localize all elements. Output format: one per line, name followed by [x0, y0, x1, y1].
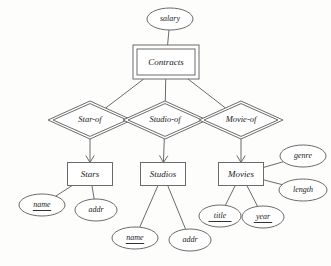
- edge-movies-genre-edge: [264, 162, 284, 168]
- attribute-label-movies-genre: genre: [294, 151, 312, 160]
- attribute-label-movies-length: length: [293, 185, 313, 194]
- edge-stars-name-edge: [56, 186, 73, 197]
- relationship-label-studio-of: Studio-of: [149, 114, 182, 124]
- edge-studios-name-edge: [140, 186, 158, 228]
- edge-star-of-stars: [86, 139, 94, 163]
- edge-line: [163, 139, 164, 163]
- er-diagram-canvas: ContractsStarsStudiosMoviesStar-ofStudio…: [0, 0, 331, 266]
- entity-label-contracts: Contracts: [148, 57, 184, 67]
- edge-salary-contracts: [168, 30, 169, 45]
- er-diagram-svg: ContractsStarsStudiosMoviesStar-ofStudio…: [0, 0, 331, 266]
- edge-studios-addr-edge: [168, 186, 186, 230]
- edge-line: [140, 186, 158, 228]
- edge-movies-year-edge: [247, 186, 258, 207]
- edge-line: [225, 186, 235, 206]
- edge-line: [264, 162, 284, 168]
- shapes-layer: [19, 8, 327, 251]
- edge-line: [56, 186, 73, 197]
- edge-contracts-star-of: [106, 79, 144, 108]
- edge-movie-of-movies: [237, 139, 245, 163]
- edge-movies-title-edge: [225, 186, 235, 206]
- edge-line: [264, 180, 283, 185]
- edge-stars-addr-edge: [92, 186, 94, 200]
- edge-line: [247, 186, 258, 207]
- attribute-label-stars-addr: addr: [88, 205, 104, 214]
- edge-contracts-movie-of: [188, 79, 226, 108]
- entity-label-studios: Studios: [150, 169, 177, 179]
- edge-studio-of-studios: [159, 139, 167, 163]
- edge-line: [168, 30, 169, 45]
- attribute-label-stars-name: name: [33, 200, 51, 209]
- edge-line: [188, 79, 226, 108]
- relationship-label-movie-of: Movie-of: [225, 114, 258, 124]
- entity-label-stars: Stars: [81, 169, 100, 179]
- relationship-label-star-of: Star-of: [78, 114, 103, 124]
- attribute-label-movies-title: title: [214, 211, 227, 220]
- entity-label-movies: Movies: [227, 169, 254, 179]
- edge-movies-length-edge: [264, 180, 283, 185]
- attribute-label-studios-addr: addr: [182, 235, 198, 244]
- attribute-label-studios-name: name: [126, 233, 144, 242]
- edge-line: [168, 186, 186, 230]
- edge-line: [106, 79, 144, 108]
- attribute-label-salary: salary: [160, 14, 180, 23]
- edge-line: [92, 186, 94, 200]
- attribute-label-movies-year: year: [255, 212, 271, 221]
